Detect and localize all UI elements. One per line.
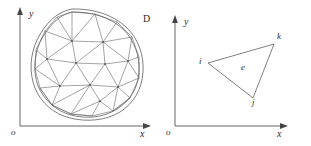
mesh-edge — [57, 17, 72, 41]
domain-boundary-inner — [35, 12, 139, 117]
left-panel-svg — [0, 0, 156, 146]
mesh-edge — [72, 41, 103, 42]
mesh-edge — [60, 63, 76, 86]
mesh-edge — [90, 85, 100, 101]
mesh-edge — [47, 59, 60, 86]
y-axis-arrowhead — [17, 7, 23, 15]
mesh-edge — [90, 85, 118, 87]
mesh-edge — [132, 37, 139, 57]
mesh-edge — [76, 63, 90, 85]
left-y-axis-label: y — [29, 9, 33, 19]
mesh-edge — [100, 101, 113, 111]
mesh-edge — [36, 50, 47, 59]
mesh-edge — [45, 31, 72, 41]
mesh-node — [75, 62, 77, 64]
mesh-node — [59, 85, 61, 87]
y-axis-arrowhead — [172, 15, 178, 23]
mesh-edge — [40, 88, 52, 105]
right-origin-label: o — [166, 128, 171, 137]
left-origin-label: o — [11, 128, 16, 137]
element-label-e: e — [241, 63, 245, 72]
mesh-edge — [60, 85, 90, 86]
mesh-edge — [95, 14, 103, 42]
vertex-label-i: i — [199, 57, 202, 66]
figure-root: y x o D y x o i j k e — [0, 0, 311, 146]
mesh-edge — [72, 41, 76, 63]
mesh-edges-group — [35, 12, 139, 116]
right-panel-svg — [155, 0, 311, 146]
mesh-edge — [76, 63, 105, 64]
mesh-edge — [103, 37, 132, 42]
mesh-edge — [128, 37, 132, 61]
left-x-axis-label: x — [140, 129, 144, 139]
mesh-edge — [103, 42, 105, 64]
mesh-edge — [52, 86, 60, 105]
mesh-node — [89, 84, 91, 86]
mesh-edge — [35, 59, 47, 69]
right-y-axis-label: y — [184, 17, 188, 27]
mesh-edge — [45, 17, 57, 31]
mesh-edge — [117, 22, 132, 37]
mesh-edge — [92, 101, 100, 116]
mesh-edge — [45, 31, 47, 59]
mesh-edge — [128, 61, 139, 78]
mesh-edge — [40, 86, 60, 88]
mesh-edge — [72, 14, 95, 41]
left-panel-triangulated-domain: y x o D — [0, 0, 156, 146]
right-panel-single-element: y x o i j k e — [155, 0, 311, 146]
axes-group — [175, 22, 281, 126]
mesh-edge — [118, 87, 130, 98]
mesh-node — [102, 41, 104, 43]
mesh-node — [71, 40, 73, 42]
mesh-edge — [47, 59, 76, 63]
domain-label-D: D — [143, 14, 150, 24]
mesh-edge — [105, 61, 128, 64]
mesh-edge — [52, 105, 71, 114]
mesh-node — [46, 58, 48, 60]
mesh-node — [117, 86, 119, 88]
mesh-nodes-group — [46, 40, 129, 102]
mesh-edge — [47, 41, 72, 59]
mesh-node — [127, 60, 129, 62]
mesh-edge — [90, 64, 105, 85]
mesh-node — [99, 100, 101, 102]
mesh-edge — [128, 57, 139, 61]
mesh-edge — [103, 42, 128, 61]
mesh-edge — [52, 85, 90, 105]
mesh-edge — [103, 22, 117, 42]
vertex-label-j: j — [252, 98, 255, 107]
mesh-node — [104, 63, 106, 65]
mesh-edge — [76, 42, 103, 63]
mesh-edge — [105, 64, 118, 87]
right-x-axis-label: x — [277, 129, 281, 139]
mesh-edge — [57, 12, 72, 17]
vertex-label-k: k — [277, 32, 281, 41]
